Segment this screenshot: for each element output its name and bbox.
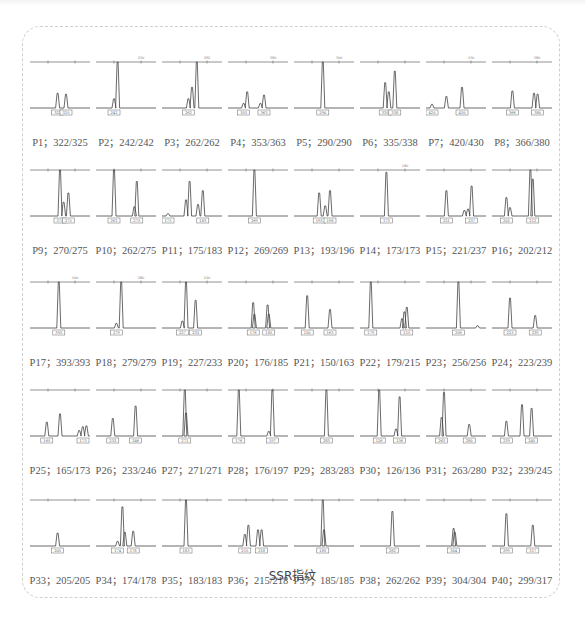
allele-call-value: 317	[529, 549, 537, 553]
electropherogram-trace: 430420430	[426, 50, 486, 130]
electropherogram-panel-p32: 239245P32；239/245	[492, 378, 552, 488]
electropherogram-panel-p2: 250242P2；242/242	[96, 50, 156, 160]
allele-call-value: 183	[199, 219, 207, 223]
electropherogram-trace: 176185	[228, 270, 288, 350]
panel-label: P9；270/275	[22, 242, 98, 257]
electropherogram-panel-p31: 263280P31；263/280	[426, 378, 486, 488]
allele-call-value: 150	[304, 331, 312, 335]
panel-label: P12；269/269	[220, 242, 296, 257]
size-axis-tick-label: 300	[336, 56, 343, 60]
panel-label: P25；165/173	[22, 462, 98, 477]
electropherogram-trace: 193196	[294, 158, 354, 238]
electropherogram-panel-p19: 240227233P19；227/233	[162, 270, 222, 380]
allele-call-value: 185	[265, 331, 273, 335]
allele-call-value: 212	[529, 219, 536, 223]
electropherogram-panel-p23: 256P23；256/256	[426, 270, 486, 380]
electropherogram-panel-p6: 335338P6；335/338	[360, 50, 420, 160]
panel-label: P21；150/163	[286, 354, 362, 369]
electropherogram-panel-p20: 176185P20；176/185	[228, 270, 288, 380]
electropherogram-trace: 280279	[96, 270, 156, 350]
electropherogram-trace: 215218	[228, 488, 288, 568]
panel-label: P32；239/245	[484, 462, 560, 477]
allele-call-value: 136	[396, 439, 404, 443]
panel-label: P22；179/215	[352, 354, 428, 369]
allele-call-value: 185	[319, 549, 327, 553]
size-axis-tick-label: 400	[72, 276, 79, 280]
size-axis-tick-label: 180	[402, 164, 409, 168]
allele-call-value: 218	[258, 549, 266, 553]
allele-call-value: 299	[503, 549, 511, 553]
allele-call-value: 366	[509, 111, 517, 115]
electropherogram-trace: 150163	[294, 270, 354, 350]
electropherogram-panel-p10: 262275P10；262/275	[96, 158, 156, 268]
panel-label: P15；221/237	[418, 242, 494, 257]
allele-call-value: 215	[403, 331, 411, 335]
allele-call-value: 223	[507, 331, 515, 335]
allele-call-value: 275	[133, 219, 141, 223]
electropherogram-trace: 240227233	[162, 270, 222, 350]
panel-label: P14；173/173	[352, 242, 428, 257]
allele-call-value: 175	[165, 219, 173, 223]
electropherogram-trace: 205	[30, 488, 90, 568]
allele-call-value: 290	[319, 111, 327, 115]
electropherogram-panel-p13: 193196P13；193/196	[294, 158, 354, 268]
electropherogram-panel-p16: 202212P16；202/212	[492, 158, 552, 268]
allele-call-value: 304	[450, 549, 458, 553]
panel-row-3: 400393P17；393/393280279P18；279/279240227…	[30, 270, 560, 380]
electropherogram-trace: 233246	[96, 378, 156, 458]
allele-call-value: 262	[111, 219, 118, 223]
electropherogram-trace: 250242	[96, 50, 156, 130]
electropherogram-trace: 270275	[30, 158, 90, 238]
electropherogram-trace: 174178	[96, 488, 156, 568]
electropherogram-trace: 263280	[426, 378, 486, 458]
panel-label: P11；175/183	[154, 242, 230, 257]
size-axis-tick-label: 280	[138, 276, 145, 280]
panel-label: P10；262/275	[88, 242, 164, 257]
allele-call-value: 262	[389, 549, 396, 553]
allele-call-value: 239	[532, 331, 540, 335]
electropherogram-trace: 176197	[228, 378, 288, 458]
electropherogram-panel-p27: 271P27；271/271	[162, 378, 222, 488]
size-axis-tick-label: 240	[204, 276, 211, 280]
panel-row-2: 270275P9；270/275262275P10；262/275175183P…	[30, 158, 560, 268]
allele-call-value: 263	[438, 439, 446, 443]
allele-call-value: 280	[466, 439, 474, 443]
panel-label: P26；233/246	[88, 462, 164, 477]
electropherogram-panel-p17: 400393P17；393/393	[30, 270, 90, 380]
electropherogram-panel-p9: 270275P9；270/275	[30, 158, 90, 268]
panel-label: P13；193/196	[286, 242, 362, 257]
panel-row-1: 322325P1；322/325250242P2；242/242262262P3…	[30, 50, 560, 160]
electropherogram-trace: 380366380	[492, 50, 552, 130]
allele-call-value: 215	[241, 549, 249, 553]
allele-call-value: 380	[534, 111, 542, 115]
panel-label: P1；322/325	[22, 134, 98, 149]
panel-label: P20；176/185	[220, 354, 296, 369]
panel-label: P6；335/338	[352, 134, 428, 149]
allele-call-value: 269	[251, 219, 259, 223]
figure-caption: SSR指纹	[0, 566, 585, 583]
electropherogram-panel-p5: 300290P5；290/290	[294, 50, 354, 160]
allele-call-value: 420	[429, 111, 437, 115]
allele-call-value: 242	[111, 111, 118, 115]
allele-call-value: 179	[367, 331, 375, 335]
allele-call-value: 283	[323, 439, 331, 443]
allele-call-value: 176	[250, 331, 258, 335]
electropherogram-panel-p30: 126136P30；126/136	[360, 378, 420, 488]
size-axis-tick-label: 262	[204, 56, 211, 60]
size-axis-tick-label: 380	[534, 56, 541, 60]
allele-call-value: 233	[192, 331, 200, 335]
electropherogram-trace: 299317	[492, 488, 552, 568]
panel-label: P2；242/242	[88, 134, 164, 149]
electropherogram-trace: 165173	[30, 378, 90, 458]
electropherogram-panel-p14: 180173P14；173/173	[360, 158, 420, 268]
electropherogram-panel-p26: 233246P26；233/246	[96, 378, 156, 488]
electropherogram-trace: 271	[162, 378, 222, 458]
electropherogram-panel-p1: 322325P1；322/325	[30, 50, 90, 160]
allele-call-value: 338	[391, 111, 399, 115]
electropherogram-panel-p4: 360353363P4；353/363	[228, 50, 288, 160]
panel-label: P3；262/262	[154, 134, 230, 149]
electropherogram-trace: 262	[360, 488, 420, 568]
panel-label: P29；283/283	[286, 462, 362, 477]
electropherogram-panel-p25: 165173P25；165/173	[30, 378, 90, 488]
allele-call-value: 193	[316, 219, 324, 223]
